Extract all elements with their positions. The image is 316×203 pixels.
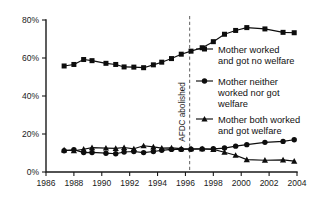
data-point-marker: [262, 140, 267, 145]
data-point-marker: [159, 60, 164, 65]
data-point-marker: [151, 62, 156, 67]
data-point-marker: [262, 26, 267, 31]
data-point-marker: [121, 149, 126, 154]
x-axis-tick-label: 1998: [204, 178, 223, 188]
data-point-marker: [131, 65, 136, 70]
legend-label-line: and got no welfare: [218, 56, 295, 66]
y-axis-tick-label: 0%: [27, 167, 40, 177]
x-axis-tick-label: 1996: [176, 178, 195, 188]
data-point-marker: [280, 139, 285, 144]
data-point-marker: [222, 32, 227, 37]
data-point-marker: [244, 142, 249, 147]
data-point-marker: [62, 63, 67, 68]
x-axis-tick-label: 2004: [288, 178, 307, 188]
legend-label-line: and got welfare: [218, 126, 282, 136]
data-point-marker: [233, 28, 238, 33]
legend-marker-circle: [202, 78, 207, 83]
data-point-marker: [113, 62, 118, 67]
x-axis-tick-label: 1994: [148, 178, 167, 188]
x-axis-tick-label: 2000: [232, 178, 251, 188]
data-point-marker: [244, 25, 249, 30]
x-axis-tick-label: 1990: [92, 178, 111, 188]
legend-marker-square: [202, 47, 207, 52]
data-point-marker: [141, 65, 146, 70]
x-axis-tick-label: 2002: [260, 178, 279, 188]
data-point-marker: [281, 30, 286, 35]
legend-label-line: Mother worked: [218, 45, 280, 55]
legend-label-line: welfare: [217, 99, 248, 109]
legend-label-line: Mother both worked: [218, 115, 300, 125]
legend-label-line: Mother neither: [218, 77, 278, 87]
afdc-abolished-label: AFDC abolished: [178, 82, 187, 142]
data-point-marker: [81, 57, 86, 62]
y-axis-tick-label: 20%: [22, 129, 39, 139]
data-point-marker: [211, 39, 216, 44]
legend-label-line: worked nor got: [217, 88, 280, 98]
data-point-marker: [233, 143, 238, 148]
data-point-marker: [103, 150, 108, 155]
data-point-marker: [71, 62, 76, 67]
x-axis-tick-label: 1986: [37, 178, 56, 188]
data-point-marker: [90, 58, 95, 63]
data-point-marker: [151, 149, 156, 154]
y-axis-tick-label: 80%: [22, 15, 39, 25]
data-point-marker: [89, 150, 94, 155]
data-point-marker: [179, 52, 184, 57]
y-axis-tick-label: 40%: [22, 91, 39, 101]
chart-container: 0%20%40%60%80%19861988199019921994199619…: [0, 0, 316, 203]
data-point-marker: [141, 150, 146, 155]
x-axis-tick-label: 1992: [120, 178, 139, 188]
data-point-marker: [113, 151, 118, 156]
x-axis-tick-label: 1988: [64, 178, 83, 188]
data-point-marker: [189, 49, 194, 54]
data-point-marker: [103, 61, 108, 66]
data-point-marker: [292, 30, 297, 35]
data-point-marker: [122, 64, 127, 69]
y-axis-tick-label: 60%: [22, 53, 39, 63]
data-point-marker: [169, 56, 174, 61]
data-point-marker: [292, 137, 297, 142]
line-chart: 0%20%40%60%80%19861988199019921994199619…: [0, 0, 316, 203]
